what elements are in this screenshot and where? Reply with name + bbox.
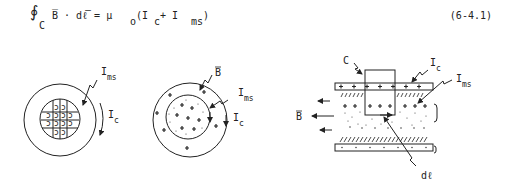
- left-label-ic-sub: c: [114, 116, 119, 125]
- figure-diagrams: ɔɔ ɔɔɔɔ ɔɔɔɔ ɔɔ I ms I c: [0, 0, 505, 190]
- svg-text:ɔ: ɔ: [46, 119, 51, 128]
- svg-text:ɔ: ɔ: [61, 119, 66, 128]
- right-label-dl: dℓ: [421, 170, 433, 181]
- svg-text:ɔ: ɔ: [61, 128, 66, 137]
- middle-label-ims-sub: ms: [244, 94, 254, 103]
- right-label-ic-sub: c: [436, 64, 441, 73]
- left-label-ims-sub: ms: [107, 73, 117, 82]
- right-label-c: C: [343, 55, 349, 66]
- svg-text:ɔ: ɔ: [54, 119, 59, 128]
- right-label-ims-sub: ms: [462, 80, 472, 89]
- figure-right: [312, 63, 452, 166]
- figure-left: ɔɔ ɔɔɔɔ ɔɔɔɔ ɔɔ: [24, 80, 103, 156]
- right-label-b: B: [296, 111, 302, 122]
- middle-label-ic-sub: c: [239, 119, 244, 128]
- figure-middle: [153, 75, 228, 157]
- svg-text:ɔ: ɔ: [54, 128, 59, 137]
- svg-text:ɔ: ɔ: [68, 119, 73, 128]
- middle-label-b: B: [215, 67, 221, 78]
